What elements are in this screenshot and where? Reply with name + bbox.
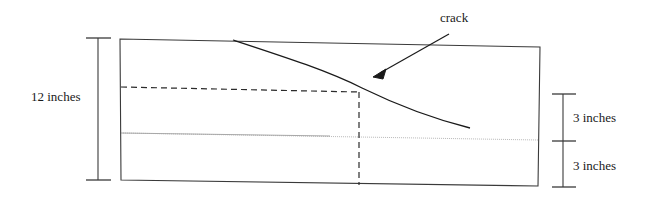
beam-outline xyxy=(120,39,540,186)
beam-cross-section-svg xyxy=(0,0,650,199)
lower-segment-label: 3 inches xyxy=(573,159,616,172)
overall-depth-label: 12 inches xyxy=(31,90,80,103)
crack-label: crack xyxy=(440,11,468,24)
upper-segment-label: 3 inches xyxy=(573,111,616,124)
diagram-canvas: 12 inches 3 inches 3 inches crack xyxy=(0,0,650,199)
